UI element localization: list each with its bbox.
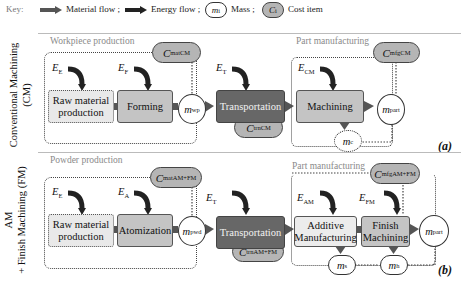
- finish-machining-box: FinishMachining: [361, 216, 410, 247]
- transportation-box-b: Transportation: [216, 216, 285, 249]
- transportation-box-a: Transportation: [216, 90, 285, 123]
- mass-part-a: mpart: [377, 94, 405, 125]
- energy-label-e-cm: ECM: [298, 62, 315, 75]
- part-manufacturing-label-b: Part manufacturing: [292, 161, 365, 171]
- energy-label-e-am: EAM: [297, 192, 314, 205]
- energy-label-e-f: EF: [118, 62, 128, 75]
- workpiece-production-label: Workpiece production: [50, 36, 134, 46]
- key-divider: [38, 33, 461, 34]
- key-cost-symbol: Ci: [262, 2, 284, 18]
- energy-label-e-fm: EFM: [359, 192, 375, 205]
- cost-mfg-amfm: CmfgAM+FM: [370, 163, 420, 184]
- panel-divider: [38, 152, 461, 153]
- mass-part-b: mpart: [419, 215, 449, 247]
- energy-label-e-e-b: EE: [52, 186, 62, 199]
- mass-s: ms: [328, 255, 356, 275]
- energy-label-e-t-a: ET: [216, 62, 226, 75]
- mass-pwd: mpwd: [178, 216, 206, 246]
- panel-b-side-label: AM + Finish Machining (FM): [2, 155, 28, 285]
- cost-mfg-cm: CmfgCM: [373, 42, 420, 63]
- key-label: Key:: [6, 4, 24, 14]
- cost-mat-amfm: CmatAM+FM: [150, 167, 202, 188]
- energy-label-e-a: EA: [118, 186, 129, 199]
- atomization-box: Atomization: [117, 214, 173, 247]
- additive-manufacturing-box: AdditiveManufacturing: [294, 216, 357, 247]
- forming-box: Forming: [117, 90, 173, 123]
- energy-label-e-t-b: ET: [206, 192, 216, 205]
- raw-material-production-box-a: Raw materialproduction: [48, 90, 114, 123]
- key-energy-flow-label: Energy flow ;: [151, 4, 200, 14]
- raw-material-production-box-b: Raw materialproduction: [48, 214, 114, 247]
- machining-box: Machining: [296, 90, 364, 123]
- key-material-flow-label: Material flow ;: [66, 4, 120, 14]
- powder-production-label: Powder production: [50, 155, 123, 165]
- cost-mat-cm: CmatCM: [152, 42, 201, 63]
- part-manufacturing-label-a: Part manufacturing: [296, 36, 369, 46]
- key-mass-symbol: mi: [205, 2, 227, 18]
- mass-wp: mwp: [178, 94, 206, 124]
- energy-flow-key-icon: [125, 6, 147, 14]
- key-cost-label: Cost item: [288, 4, 323, 14]
- panel-b-letter: (b): [438, 263, 452, 278]
- mass-c: mc: [334, 130, 362, 152]
- key-mass-label: Mass ;: [231, 4, 255, 14]
- energy-label-e-e-a: EE: [52, 62, 62, 75]
- material-flow-key-icon: [40, 6, 62, 14]
- mass-h: mh: [380, 255, 408, 275]
- panel-a-side-label: Conventional Machining (CM): [7, 35, 33, 155]
